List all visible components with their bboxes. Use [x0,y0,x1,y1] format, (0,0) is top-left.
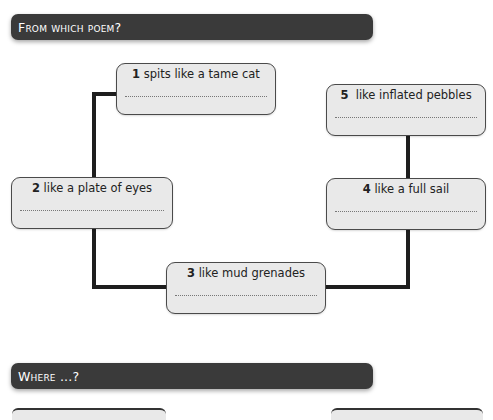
simile-number: 2 [32,181,40,195]
answer-line[interactable] [335,117,477,118]
section-heading-text: From which poem? [18,20,121,35]
simile-box-2: 2 like a plate of eyes [11,177,173,229]
simile-text: like a plate of eyes [44,181,153,195]
simile-box-4: 4 like a full sail [326,178,486,230]
answer-line[interactable] [125,96,267,97]
simile-number: 5 [340,88,348,102]
section-heading-from-which-poem: From which poem? [11,14,373,40]
answer-line[interactable] [335,211,477,212]
partial-box-right [331,408,483,420]
simile-box-1: 1 spits like a tame cat [116,63,276,115]
connector-line [406,136,410,179]
simile-text: like a full sail [374,182,449,196]
simile-label: 3 like mud grenades [167,266,325,280]
connector-line [92,92,96,178]
connector-line [92,229,96,289]
simile-label: 1 spits like a tame cat [117,67,275,81]
partial-box-left [12,408,166,420]
simile-label: 5 like inflated pebbles [327,88,485,102]
simile-text: like mud grenades [199,266,305,280]
simile-box-5: 5 like inflated pebbles [326,84,486,136]
connector-line [92,285,168,289]
section-heading-where: Where ...? [11,363,373,389]
section-heading-text: Where ...? [18,369,79,384]
connector-line [406,229,410,289]
answer-line[interactable] [20,210,164,211]
answer-line[interactable] [175,295,317,296]
simile-label: 2 like a plate of eyes [12,181,172,195]
simile-text: like inflated pebbles [356,88,472,102]
connector-line [324,285,410,289]
simile-number: 3 [187,266,195,280]
simile-number: 4 [363,182,371,196]
simile-label: 4 like a full sail [327,182,485,196]
simile-box-3: 3 like mud grenades [166,262,326,314]
simile-number: 1 [132,67,140,81]
simile-text: spits like a tame cat [144,67,260,81]
